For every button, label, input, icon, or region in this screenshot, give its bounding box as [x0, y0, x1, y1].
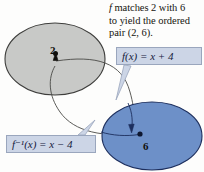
- caption-text: f matches 2 with 6 to yield the ordered …: [109, 2, 204, 40]
- caption-line3: pair (2, 6).: [109, 27, 153, 38]
- node-dot-6: [137, 131, 142, 136]
- node-label-2: 2: [50, 44, 56, 56]
- forward-function-text: f(x) = x + 4: [122, 51, 174, 62]
- caption-line2: to yield the ordered: [109, 15, 190, 26]
- forward-label-pointer: [116, 65, 131, 100]
- forward-function-label: f(x) = x + 4: [116, 47, 202, 65]
- node-label-6: 6: [143, 140, 149, 152]
- inverse-function-label: f⁻¹(x) = x − 4: [6, 135, 96, 153]
- inverse-function-mapping-figure: f matches 2 with 6 to yield the ordered …: [0, 0, 204, 172]
- inverse-label-pointer: [78, 120, 95, 135]
- range-ellipse: [102, 102, 202, 170]
- caption-line1-rest: matches 2 with 6: [112, 2, 185, 13]
- inverse-function-text: f⁻¹(x) = x − 4: [12, 139, 73, 150]
